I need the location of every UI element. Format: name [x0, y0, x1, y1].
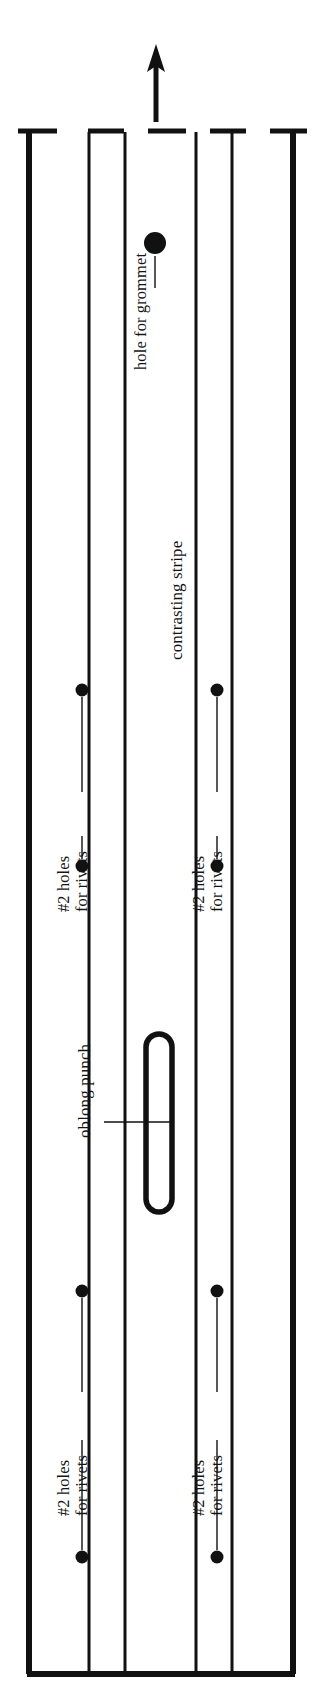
- rivet-hole: [211, 1285, 224, 1298]
- diagram-linework: [0, 0, 323, 1708]
- label-contrasting-stripe: contrasting stripe: [168, 541, 186, 660]
- label-rivets-upper-right-line2: for rivets: [208, 851, 226, 912]
- label-rivets-lower-right-line2: for rivets: [208, 1455, 226, 1516]
- diagram-canvas: hole for grommet contrasting stripe #2 h…: [0, 0, 323, 1708]
- label-rivets-lower-left-line1: #2 holes: [55, 1455, 73, 1516]
- label-rivets-upper-left: #2 holes for rivets: [55, 851, 92, 912]
- rivet-hole: [76, 1551, 89, 1564]
- label-oblong-punch-text: oblong punch: [76, 1044, 94, 1138]
- rivet-hole: [76, 684, 89, 697]
- label-rivets-upper-left-line2: for rivets: [73, 851, 91, 912]
- label-hole-for-grommet: hole for grommet: [132, 253, 150, 370]
- label-rivets-upper-left-line1: #2 holes: [55, 851, 73, 912]
- label-rivets-lower-right-line1: #2 holes: [190, 1455, 208, 1516]
- oblong-punch: [146, 1034, 172, 1212]
- up-arrow-icon: [147, 44, 165, 122]
- grommet-hole: [144, 232, 166, 254]
- rivet-hole: [211, 684, 224, 697]
- label-rivets-lower-left-line2: for rivets: [73, 1455, 91, 1516]
- label-rivets-lower-right: #2 holes for rivets: [190, 1455, 227, 1516]
- label-rivets-upper-right: #2 holes for rivets: [190, 851, 227, 912]
- label-hole-for-grommet-line1: hole for grommet: [132, 253, 150, 370]
- label-rivets-upper-right-line1: #2 holes: [190, 851, 208, 912]
- rivet-hole: [211, 1551, 224, 1564]
- label-rivets-lower-left: #2 holes for rivets: [55, 1455, 92, 1516]
- label-oblong-punch: oblong punch: [76, 1044, 94, 1138]
- rivet-hole: [76, 1285, 89, 1298]
- label-contrasting-stripe-text: contrasting stripe: [168, 541, 186, 660]
